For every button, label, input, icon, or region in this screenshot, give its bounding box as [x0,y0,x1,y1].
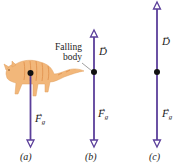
caption-b: (b) [85,151,97,162]
cat-illustration [4,60,84,96]
vector-subscript: g [105,113,109,121]
vector-arrow-icon: → [99,41,107,52]
annotation-leader-line [82,63,92,71]
caption-c: (c) [149,151,160,162]
panel-b-vectors [91,30,98,147]
vector-subscript: g [169,113,173,121]
vector-label-d-c: →D [162,36,170,47]
panel-c-vectors [154,2,161,147]
vector-subscript: g [42,118,46,126]
vector-arrow-icon: → [162,31,170,42]
caption-a: (a) [20,151,32,162]
falling-body-label: Falling body [40,42,82,62]
vector-label-fg-a: →Fg [35,113,45,128]
vector-arrow-icon: → [98,103,106,114]
vector-label-fg-b: →Fg [98,108,108,123]
arrowhead-down-icon [91,140,98,147]
falling-body-label-line2: body [40,52,82,62]
arrowhead-down-icon [154,140,161,147]
free-body-diagram [0,0,174,166]
arrowhead-up-icon [91,30,98,37]
vector-label-d-b: →D [99,46,107,57]
body-dot [91,69,97,75]
body-dot [154,69,160,75]
vector-label-fg-c: →Fg [162,108,172,123]
arrowhead-down-icon [27,140,34,147]
vector-arrow-icon: → [162,103,170,114]
vector-arrow-icon: → [35,108,43,119]
arrowhead-up-icon [154,2,161,9]
body-dot [28,70,34,76]
falling-body-label-line1: Falling [40,42,82,52]
